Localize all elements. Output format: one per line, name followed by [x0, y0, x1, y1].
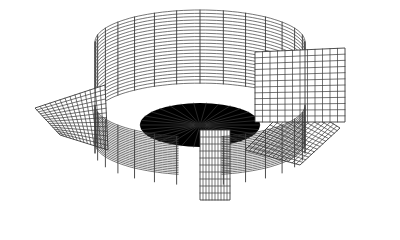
wireframe-surface-plot [0, 0, 400, 240]
center-singularity [194, 123, 206, 128]
wireframe-figure [0, 0, 400, 240]
